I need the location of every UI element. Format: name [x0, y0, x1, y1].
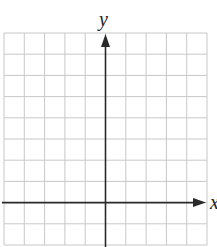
axes — [2, 34, 206, 247]
coordinate-plane: y x — [0, 0, 217, 247]
y-axis-arrow-icon — [101, 34, 110, 47]
x-axis-label: x — [209, 191, 217, 213]
y-axis-label: y — [97, 8, 108, 31]
x-axis-arrow-icon — [193, 198, 206, 207]
